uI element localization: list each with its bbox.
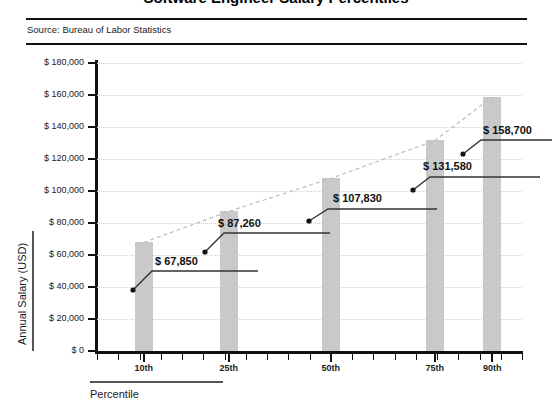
y-tick [88,254,96,256]
y-tick [88,222,96,224]
y-tick [88,94,96,96]
x-tick [310,354,311,360]
gridline [97,191,522,193]
annotation-label-25th: $ 87,260 [218,217,261,229]
bar-25th [220,211,238,351]
bar-10th [135,242,153,351]
y-tick [88,190,96,192]
gridline [97,63,522,65]
y-axis-title: Annual Salary (USD) [16,243,28,345]
x-tick [288,354,289,360]
x-tick [352,354,353,360]
x-tick-major [434,354,436,362]
x-axis-title-rule [90,381,223,383]
x-tick-major [491,354,493,362]
x-tick [182,354,183,360]
y-tick [88,350,96,352]
x-tick [373,354,374,360]
x-tick-major [330,354,332,362]
y-tick-label: $ 120,000 [22,153,84,163]
y-axis-title-rule [32,231,34,351]
y-tick [88,158,96,160]
x-tick [437,354,438,360]
x-tick [267,354,268,360]
x-tick [522,354,523,360]
header-rule-bottom [26,43,527,45]
x-tick [118,354,119,360]
gridline [97,95,522,97]
x-tick [203,354,204,360]
page-title: Software Engineer Salary Percentiles [0,0,552,6]
x-tick [246,354,247,360]
annotation-label-10th: $ 67,850 [155,255,198,267]
x-tick [480,354,481,360]
y-tick-label: $ 180,000 [22,57,84,67]
x-tick-label: 90th [462,363,522,373]
annotation-dot [202,249,207,254]
gridline [97,319,522,321]
y-tick [88,286,96,288]
x-tick [416,354,417,360]
annotation-label-90th: $ 158,700 [483,124,532,136]
annotation-label-50th: $ 107,830 [333,192,382,204]
gridline [97,127,522,129]
annotation-leader [463,140,552,154]
x-tick [225,354,226,360]
chart-container: Software Engineer Salary Percentiles Sou… [0,0,552,411]
header-rule-top [26,18,527,20]
x-tick [97,354,98,360]
x-tick-label: 50th [301,363,361,373]
chart-title-clip: Software Engineer Salary Percentiles [0,0,552,10]
x-axis-title: Percentile [90,388,139,400]
y-axis-spine [95,60,98,354]
y-tick [88,318,96,320]
x-tick [140,354,141,360]
y-tick [88,62,96,64]
x-tick [395,354,396,360]
y-tick-label: $ 100,000 [22,185,84,195]
x-tick-label: 75th [405,363,465,373]
x-tick-label: 10th [114,363,174,373]
x-tick [501,354,502,360]
annotation-label-75th: $ 131,580 [423,160,472,172]
bar-50th [322,178,340,351]
y-tick-label: $ 160,000 [22,89,84,99]
annotation-dot [460,151,465,156]
y-tick [88,126,96,128]
y-tick-label: $ 80,000 [22,217,84,227]
source-caption: Source: Bureau of Labor Statistics [27,24,171,35]
x-tick [161,354,162,360]
x-tick-label: 25th [199,363,259,373]
gridline [97,287,522,289]
x-tick [458,354,459,360]
x-tick-major [228,354,230,362]
x-tick-major [143,354,145,362]
gridline [97,223,522,225]
bar-75th [426,140,444,351]
y-tick-label: $ 140,000 [22,121,84,131]
